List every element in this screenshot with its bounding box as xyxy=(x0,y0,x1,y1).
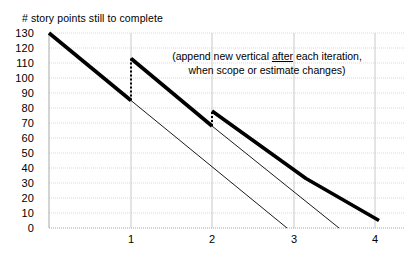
plot-area xyxy=(0,0,414,257)
annotation-emphasis: after xyxy=(272,50,293,62)
annotation-line-2: when scope or estimate changes) xyxy=(136,63,398,77)
annotation-line-1-pre: (append new vertical xyxy=(172,50,272,62)
annotation-line-1-post: each iteration, xyxy=(293,50,362,62)
projection-line-iteration-1 xyxy=(131,101,287,229)
burndown-chart: # story points still to complete 130 120… xyxy=(0,0,414,257)
chart-annotation: (append new vertical after each iteratio… xyxy=(136,49,398,77)
